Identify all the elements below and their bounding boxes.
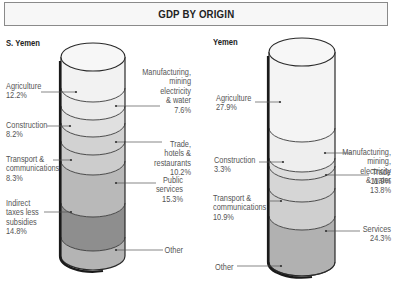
leader-dot (115, 249, 117, 251)
cylinder-s-yemen (60, 43, 125, 272)
label-text: Agriculture27.9% (216, 94, 251, 113)
label-text: Construction8.2% (6, 121, 47, 140)
label-text: Other (215, 263, 234, 272)
label-text: Manufacturing,miningelectricity& water7.… (142, 68, 191, 115)
label-text: Transport &communications8.3% (6, 155, 59, 183)
label-text: Other (165, 246, 184, 255)
cylinder-top (61, 43, 125, 71)
leader-dot (69, 125, 71, 127)
leader-dot (279, 101, 281, 103)
leader-dot (325, 230, 327, 232)
leader-dot (115, 182, 117, 184)
leader-dot (75, 91, 77, 93)
label-text: Agriculture12.2% (6, 82, 41, 101)
label-text: Trade,hotels &restaurants10.2% (154, 140, 192, 178)
leader-dot (280, 265, 282, 267)
label-text: Publicservices15.3% (156, 176, 183, 204)
label-text: Indirecttaxes lesssubsidies14.8% (6, 199, 39, 237)
label-text: Construction3.3% (214, 156, 255, 175)
leader-dot (325, 174, 327, 176)
label-manufacturing-mining-electricity-water: Manufacturing,miningelectricity& water7.… (115, 68, 191, 115)
leader-dot (282, 161, 284, 163)
leader-dot (324, 152, 326, 154)
cylinder-top (269, 38, 335, 66)
gdp-cylinder-charts: Agriculture12.2%Manufacturing,miningelec… (0, 0, 399, 288)
cylinder-yemen (268, 38, 335, 278)
label-trade-hotels-restaurants: Trade,hotels &restaurants10.2% (115, 140, 192, 178)
label-text: Services24.3% (363, 225, 391, 244)
leader-dot (70, 159, 72, 161)
leader-dot (115, 105, 117, 107)
label-text: Transport &communications10.9% (213, 194, 266, 222)
leader-dot (70, 211, 72, 213)
label-text: Trade11.9% (371, 168, 391, 187)
leader-dot (280, 200, 282, 202)
leader-dot (115, 141, 117, 143)
